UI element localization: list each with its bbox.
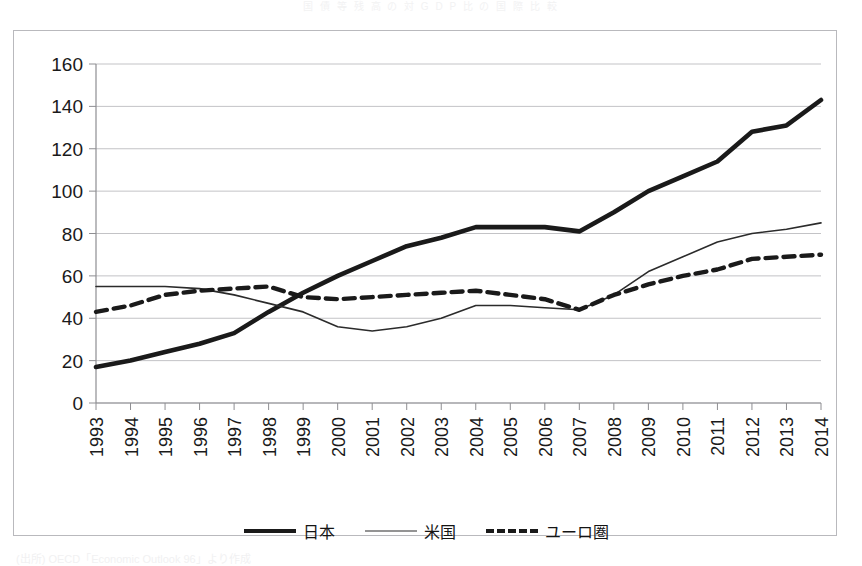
chart-legend: 日本 米国 ユーロ圏: [14, 511, 838, 551]
svg-text:40: 40: [62, 308, 83, 329]
figure-frame: 020406080100120140160 199319941995199619…: [13, 30, 837, 536]
svg-text:20: 20: [62, 351, 83, 372]
y-axis-tick-labels: 020406080100120140160: [51, 54, 83, 414]
thick-solid-line-swatch: [244, 525, 296, 537]
legend-item-euro: ユーロ圏: [486, 519, 609, 543]
line-chart-plot: 020406080100120140160 199319941995199619…: [14, 31, 838, 537]
svg-text:2005: 2005: [501, 417, 521, 457]
svg-text:2000: 2000: [329, 417, 349, 457]
svg-text:1999: 1999: [294, 417, 314, 457]
svg-text:2009: 2009: [639, 417, 659, 457]
svg-text:2014: 2014: [812, 417, 832, 457]
svg-text:2008: 2008: [605, 417, 625, 457]
svg-text:2012: 2012: [743, 417, 763, 457]
svg-text:2011: 2011: [708, 417, 728, 456]
legend-item-us: 米国: [365, 519, 456, 543]
svg-text:140: 140: [51, 96, 83, 117]
svg-text:1997: 1997: [225, 417, 245, 457]
legend-label-us: 米国: [424, 519, 456, 543]
svg-text:1998: 1998: [260, 417, 280, 457]
legend-label-euro: ユーロ圏: [545, 519, 609, 543]
svg-text:2007: 2007: [570, 417, 590, 457]
svg-text:2013: 2013: [777, 417, 797, 457]
thin-solid-line-swatch: [365, 525, 417, 537]
svg-text:2003: 2003: [432, 417, 452, 457]
svg-text:0: 0: [72, 393, 83, 414]
svg-text:2002: 2002: [398, 417, 418, 457]
svg-text:1993: 1993: [87, 417, 107, 457]
svg-text:80: 80: [62, 224, 83, 245]
svg-text:100: 100: [51, 181, 83, 202]
x-axis-tick-labels: 1993199419951996199719981999200020012002…: [87, 417, 832, 457]
svg-text:1996: 1996: [191, 417, 211, 457]
svg-text:160: 160: [51, 54, 83, 75]
svg-text:1994: 1994: [122, 417, 142, 457]
svg-text:60: 60: [62, 266, 83, 287]
source-note: (出所) OECD「Economic Outlook 96」より作成: [16, 552, 516, 566]
svg-text:2006: 2006: [536, 417, 556, 457]
svg-text:1995: 1995: [156, 417, 176, 457]
svg-text:120: 120: [51, 139, 83, 160]
svg-text:2010: 2010: [674, 417, 694, 457]
svg-text:2001: 2001: [363, 417, 383, 457]
legend-label-japan: 日本: [303, 519, 335, 543]
svg-text:2004: 2004: [467, 417, 487, 457]
x-axis-tick-marks: [96, 403, 821, 410]
legend-item-japan: 日本: [244, 519, 335, 543]
figure-caption-top: 国 債 等 残 高 の 対 G D P 比 の 国 際 比 較: [0, 0, 862, 14]
dashed-line-swatch: [486, 525, 538, 537]
